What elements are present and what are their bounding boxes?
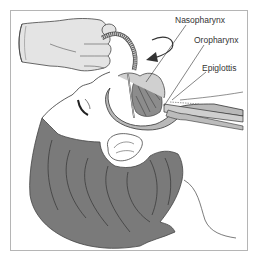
closed-eye: [78, 100, 88, 115]
arrow-head-icon: [146, 52, 158, 62]
leader-oropharynx: [164, 45, 204, 106]
leader-nasopharynx: [146, 25, 186, 82]
label-epiglottis: Epiglottis: [202, 63, 237, 73]
label-nasopharynx: Nasopharynx: [175, 15, 225, 25]
face-outline: [42, 72, 110, 118]
ear: [107, 134, 142, 161]
gloved-hand: [19, 19, 111, 71]
neck-outline: [184, 180, 236, 238]
label-oropharynx: Oropharynx: [194, 35, 238, 45]
